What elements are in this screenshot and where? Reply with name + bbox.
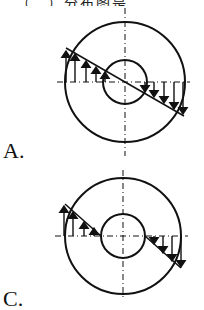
option-a-label: A. xyxy=(3,138,24,164)
option-c-label: C. xyxy=(3,286,23,310)
diagram-c xyxy=(55,170,188,300)
stress-line-left xyxy=(65,204,101,236)
diagram-a xyxy=(57,8,190,156)
upward-stress-arrows xyxy=(64,209,94,236)
upward-stress-arrows xyxy=(66,54,105,82)
